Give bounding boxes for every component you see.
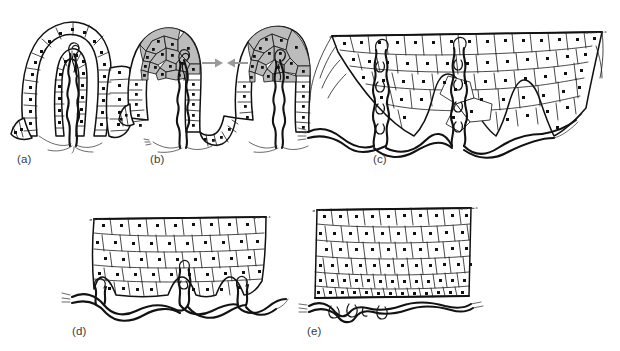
figure-canvas: (a) (0, 0, 620, 351)
panel-b-valley (200, 116, 238, 146)
arrow-right-pointing (202, 59, 223, 68)
panel-a: (a) (10, 8, 135, 153)
panel-c-epithelium (330, 32, 606, 136)
panel-c: (c) (310, 20, 610, 155)
panel-label-b: (b) (150, 153, 164, 165)
panel-b-drawing (120, 8, 305, 153)
panel-c-plexus (298, 114, 582, 158)
panel-label-a: (a) (17, 153, 31, 165)
panel-d-plexus (62, 293, 288, 321)
panel-d-drawing (70, 205, 290, 325)
panel-label-e: (e) (307, 325, 321, 337)
panel-b: (b) (120, 8, 305, 153)
right-fold-shaded-cells (248, 26, 310, 82)
panel-label-c: (c) (373, 153, 387, 165)
panel-label-d: (d) (72, 325, 86, 337)
panel-c-drawing (310, 20, 610, 155)
panel-a-drawing (10, 8, 135, 153)
panel-e-epithelium (313, 208, 477, 298)
left-fold-shaded-cells (140, 28, 200, 80)
panel-e-plexus (299, 302, 483, 322)
panel-e: (e) (305, 200, 485, 325)
panel-e-drawing (305, 200, 485, 325)
panel-d: (d) (70, 205, 290, 325)
